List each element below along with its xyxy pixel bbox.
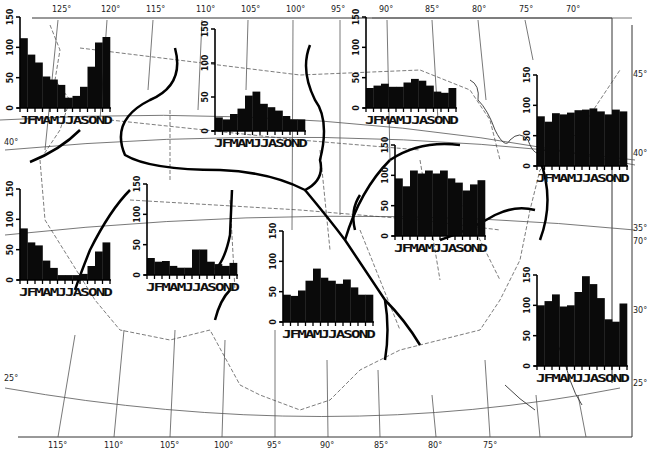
bar — [358, 295, 366, 322]
bar — [582, 276, 590, 366]
bar — [537, 305, 545, 366]
bar — [222, 266, 230, 275]
y-tick-label: 50 — [269, 286, 278, 298]
y-tick-label: 0 — [6, 277, 15, 283]
bar — [396, 87, 404, 108]
bar — [582, 110, 590, 166]
month-axis-label: JFMAMJJASOND — [365, 115, 459, 126]
lon-label: 110° — [196, 5, 215, 14]
lat-label: 40° — [633, 149, 647, 158]
bar — [448, 178, 456, 236]
y-tick-label: 100 — [201, 54, 210, 71]
month-axis-label: JFMAMJJASOND — [19, 287, 113, 298]
y-tick-label: 150 — [6, 180, 15, 197]
bar — [207, 262, 215, 275]
lon-label: 115° — [48, 441, 67, 450]
bar — [328, 281, 336, 322]
bar — [283, 116, 291, 131]
longitude-labels-bottom: 115° 110° 105° 100° 95° 90° 85° 80° 75° — [48, 441, 497, 450]
y-tick-label: 0 — [6, 105, 15, 111]
bar — [43, 261, 51, 280]
bar — [418, 174, 426, 237]
bar — [238, 109, 246, 131]
bar — [103, 37, 111, 108]
bar — [411, 79, 419, 108]
state-boundaries — [40, 25, 620, 410]
y-tick-label: 50 — [523, 330, 532, 342]
month-axis-label: JFMAMJJASOND — [394, 243, 488, 254]
bar — [381, 84, 389, 108]
y-tick-label: 0 — [133, 272, 142, 278]
inset-bar-chart: 050100150JFMAMJJASOND — [133, 175, 240, 293]
bar — [230, 114, 238, 131]
lon-label: 105° — [160, 441, 179, 450]
bar — [215, 264, 223, 275]
bar — [80, 87, 88, 108]
y-tick-label: 100 — [381, 167, 390, 184]
bar — [298, 291, 306, 323]
bar — [620, 304, 628, 367]
bar — [58, 85, 66, 108]
map-figure: 125° 120° 115° 110° 105° 100° 95° 90° 85… — [0, 0, 650, 453]
y-tick-label: 150 — [201, 20, 210, 37]
bar — [343, 280, 351, 323]
bar — [567, 305, 575, 366]
bar — [605, 319, 613, 366]
inset-bar-chart: 050100150JFMAMJJASOND — [6, 8, 113, 126]
bar — [575, 110, 583, 166]
lat-label: 35° — [633, 224, 647, 233]
lat-label: 25° — [4, 374, 18, 383]
lon-label: 75° — [483, 441, 497, 450]
lon-label: 125° — [52, 5, 71, 14]
inset-bar-chart: 050100150JFMAMJJASOND — [381, 136, 488, 254]
bar — [410, 171, 418, 237]
lon-label: 80° — [428, 441, 442, 450]
y-tick-label: 50 — [6, 244, 15, 256]
bar — [50, 80, 58, 109]
y-tick-label: 150 — [6, 8, 15, 25]
lon-label: 85° — [374, 441, 388, 450]
y-tick-label: 0 — [381, 233, 390, 239]
bar — [552, 294, 560, 366]
bar — [155, 262, 163, 275]
bar — [425, 171, 433, 237]
lon-label: 70° — [566, 5, 580, 14]
bar — [620, 111, 628, 166]
bar — [433, 174, 441, 237]
bar — [560, 307, 568, 367]
bar — [28, 55, 36, 108]
y-tick-label: 50 — [201, 91, 210, 103]
lon-label: 85° — [425, 5, 439, 14]
bar — [374, 86, 382, 108]
bar — [80, 274, 88, 280]
lat-label: 40° — [4, 138, 18, 147]
inset-bar-chart: 050100150JFMAMJJASOND — [523, 266, 630, 384]
bar — [253, 92, 261, 131]
bar — [440, 171, 448, 237]
y-tick-label: 0 — [352, 105, 361, 111]
bar — [403, 186, 411, 236]
bar — [95, 252, 103, 281]
lon-label: 95° — [331, 5, 345, 14]
lon-label: 120° — [101, 5, 120, 14]
bar — [298, 119, 306, 131]
bar — [275, 111, 283, 131]
y-tick-label: 0 — [201, 128, 210, 134]
bar — [590, 108, 598, 166]
bar — [351, 287, 359, 322]
bar — [366, 295, 374, 322]
lat-label: 30° — [633, 306, 647, 315]
y-tick-label: 150 — [381, 136, 390, 153]
lon-label: 110° — [104, 441, 123, 450]
bar — [88, 67, 96, 108]
month-axis-label: JFMAMJJASOND — [146, 282, 240, 293]
bar — [185, 268, 193, 275]
bar — [283, 295, 291, 322]
bar — [65, 98, 73, 108]
bar — [306, 281, 314, 322]
bar — [470, 184, 478, 236]
bar — [552, 113, 560, 166]
lon-label: 90° — [379, 5, 393, 14]
inset-bar-chart: 050100150JFMAMJJASOND — [201, 20, 308, 149]
bar — [35, 63, 43, 109]
